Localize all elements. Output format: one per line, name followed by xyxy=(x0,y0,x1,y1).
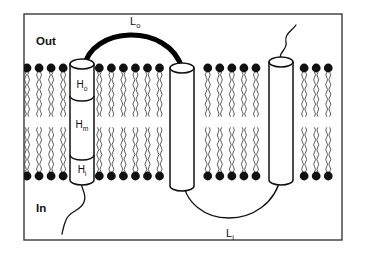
lipid-head-group xyxy=(143,64,152,73)
lipid-head-group xyxy=(215,64,224,73)
lipid-head-group xyxy=(300,172,309,181)
lipid-head-group xyxy=(131,172,140,181)
lipid-head-group xyxy=(95,172,104,181)
helix-3-body xyxy=(269,62,293,185)
helix-3 xyxy=(269,57,293,185)
label-in: In xyxy=(36,202,46,214)
helix-1-top-cap xyxy=(70,59,94,69)
lipid-head-group xyxy=(35,64,44,73)
lipid-head-group xyxy=(155,64,164,73)
lipid-head-group xyxy=(59,64,68,73)
lipid-head-group xyxy=(47,64,56,73)
lipid-head-group xyxy=(252,64,261,73)
lipid-head-group xyxy=(324,64,333,73)
lipid-head-group xyxy=(59,172,68,181)
lipid-head-group xyxy=(215,172,224,181)
helix-2-body xyxy=(170,68,194,191)
lipid-head-group xyxy=(47,172,56,181)
lipid-head-group xyxy=(312,172,321,181)
lipid-head-group xyxy=(312,64,321,73)
lipid-head-group xyxy=(227,64,236,73)
lipid-head-group xyxy=(131,64,140,73)
lipid-head-group xyxy=(240,172,249,181)
helix-2 xyxy=(170,63,194,191)
lipid-head-group xyxy=(203,64,212,73)
lipid-head-group xyxy=(155,172,164,181)
lipid-head-group xyxy=(324,172,333,181)
helix-1: Ho Hm Hi xyxy=(70,59,94,185)
helix-2-top-cap xyxy=(170,63,194,73)
lipid-head-group xyxy=(252,172,261,181)
lipid-head-group xyxy=(203,172,212,181)
lipid-head-group xyxy=(119,172,128,181)
lipid-head-group xyxy=(143,172,152,181)
label-out: Out xyxy=(36,35,56,47)
lipid-head-group xyxy=(227,172,236,181)
helix-3-top-cap xyxy=(269,57,293,67)
lipid-head-group xyxy=(95,64,104,73)
lipid-head-group xyxy=(119,64,128,73)
lipid-head-group xyxy=(107,64,116,73)
lipid-head-group xyxy=(107,172,116,181)
figure-root: Ho Hm Hi Out xyxy=(0,0,365,253)
membrane-topology-diagram: Ho Hm Hi Out xyxy=(0,0,365,253)
lipid-head-group xyxy=(300,64,309,73)
lipid-head-group xyxy=(240,64,249,73)
lipid-head-group xyxy=(35,172,44,181)
